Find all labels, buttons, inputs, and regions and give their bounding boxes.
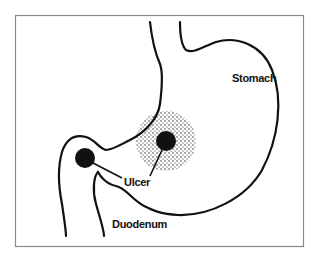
ulcer-diagram: Stomach Ulcer Duodenum (0, 0, 319, 259)
ulcer-duodenum (75, 148, 95, 168)
label-ulcer: Ulcer (124, 176, 151, 188)
label-duodenum: Duodenum (112, 218, 168, 230)
label-stomach: Stomach (232, 72, 277, 84)
ulcer-stomach (156, 131, 176, 151)
diagram-canvas: Stomach Ulcer Duodenum (0, 0, 319, 259)
